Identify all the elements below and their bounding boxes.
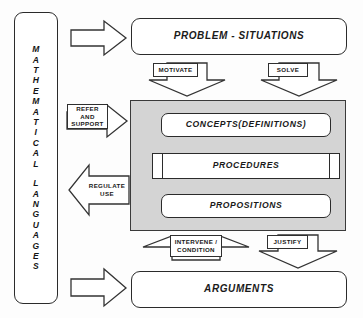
mathematical-languages-word-2: L A N G U A G E S — [32, 178, 39, 272]
vletter: A — [33, 107, 40, 117]
vletter: H — [33, 75, 40, 85]
vletter: G — [32, 241, 39, 251]
vletter: E — [33, 86, 39, 96]
vletter: I — [35, 127, 38, 137]
mathematical-languages-word-1: M A T H E M A T I C A L — [32, 44, 39, 169]
arrow-to-arguments — [70, 268, 128, 308]
vletter: T — [33, 65, 39, 75]
arguments-box: ARGUMENTS — [131, 271, 347, 308]
arrow-solve-caption: SOLVE — [268, 63, 308, 77]
procedures-label: PROCEDURES — [213, 161, 280, 170]
refer-line-1: REFER — [76, 105, 99, 113]
arrow-to-problem-situations — [70, 20, 128, 56]
vletter: T — [33, 117, 39, 127]
vletter: A — [33, 230, 40, 240]
vletter: L — [33, 159, 39, 169]
vletter: C — [33, 138, 40, 148]
problem-situations-label: PROBLEM - SITUATIONS — [174, 31, 305, 42]
vletter: U — [33, 220, 40, 230]
diagram-canvas: M A T H E M A T I C A L L A N G U A G E … — [0, 0, 363, 318]
problem-situations-box: PROBLEM - SITUATIONS — [131, 18, 347, 55]
arrow-justify-label: JUSTIFY — [274, 238, 302, 246]
concepts-definitions-box: CONCEPTS(DEFINITIONS) — [161, 113, 331, 137]
vletter: M — [32, 96, 39, 106]
vletter: N — [33, 199, 40, 209]
arrow-intervene-condition-caption: INTERVENE / CONDITION — [170, 235, 222, 257]
vletter: S — [33, 261, 39, 271]
propositions-label: PROPOSITIONS — [210, 201, 283, 210]
intervene-line-2: CONDITION — [177, 246, 215, 254]
arrow-motivate-caption: MOTIVATE — [153, 63, 198, 77]
refer-line-3: SUPPORT — [71, 120, 103, 128]
vletter: L — [33, 178, 39, 188]
vletter: A — [33, 189, 40, 199]
vletter: E — [33, 251, 39, 261]
mathematical-languages-panel: M A T H E M A T I C A L L A N G U A G E … — [14, 12, 58, 304]
vletter: A — [33, 55, 40, 65]
arrow-justify-caption: JUSTIFY — [267, 235, 308, 249]
vletter: A — [33, 148, 40, 158]
vletter: M — [32, 44, 39, 54]
concepts-definitions-label: CONCEPTS(DEFINITIONS) — [186, 120, 307, 129]
procedures-right-cap — [329, 154, 330, 178]
arrow-refer-and-support-caption: REFER AND SUPPORT — [67, 104, 108, 129]
refer-line-2: AND — [80, 113, 94, 121]
arrow-motivate-label: MOTIVATE — [159, 66, 193, 74]
propositions-box: PROPOSITIONS — [161, 194, 331, 218]
vletter: G — [32, 209, 39, 219]
procedures-box: PROCEDURES — [152, 153, 340, 179]
arguments-label: ARGUMENTS — [204, 284, 274, 295]
intervene-line-1: INTERVENE / — [175, 238, 218, 246]
arrow-regulate-use — [68, 163, 130, 219]
arrow-solve-label: SOLVE — [277, 66, 299, 74]
procedures-left-cap — [162, 154, 163, 178]
